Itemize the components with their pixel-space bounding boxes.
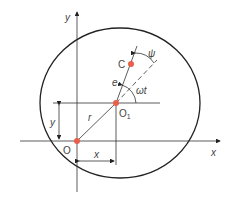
e-label: e [112, 77, 118, 88]
x-axis-label: x [210, 147, 217, 158]
y-dimension-label: y [49, 117, 56, 128]
point-o1 [113, 100, 119, 106]
point-c [128, 61, 134, 67]
omega-t-label: ωt [136, 85, 148, 96]
o1-label: O1 [119, 108, 131, 120]
psi-label: ψ [148, 48, 156, 59]
x-dimension-label: x [93, 149, 100, 160]
origin-label: O [63, 145, 71, 156]
r-label: r [88, 112, 92, 123]
diagram-canvas: y x O O1 C e r ωt ψ y x [0, 0, 234, 199]
y-axis-label: y [64, 12, 71, 23]
radius-line [77, 103, 116, 141]
c-label: C [118, 59, 125, 70]
point-origin [74, 138, 80, 144]
